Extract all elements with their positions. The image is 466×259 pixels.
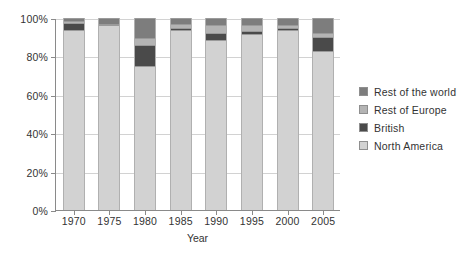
bar-segment-rest-of-the-world[interactable]	[206, 18, 226, 25]
bar-segment-rest-of-europe[interactable]	[206, 25, 226, 34]
y-axis-tick	[51, 19, 56, 20]
bar-segment-rest-of-europe[interactable]	[99, 24, 119, 25]
legend-swatch-icon	[359, 87, 368, 96]
x-axis-label: 2005	[311, 215, 335, 227]
bar-segment-north-america[interactable]	[171, 30, 191, 210]
chart-legend: Rest of the worldRest of EuropeBritishNo…	[359, 84, 456, 156]
bar-segment-rest-of-the-world[interactable]	[242, 18, 262, 25]
y-axis-tick	[51, 57, 56, 58]
bar-segment-rest-of-the-world[interactable]	[135, 18, 155, 38]
bar-segment-north-america[interactable]	[64, 30, 84, 210]
x-axis-label: 2000	[275, 215, 299, 227]
bar-segment-rest-of-europe[interactable]	[135, 38, 155, 45]
x-axis-title: Year	[55, 232, 340, 244]
y-axis-label: 60%	[26, 90, 48, 102]
x-axis-label: 1995	[240, 215, 264, 227]
bar-segment-north-america[interactable]	[135, 66, 155, 210]
legend-label: Rest of Europe	[374, 104, 447, 116]
x-axis-label: 1990	[204, 215, 228, 227]
y-axis-label: 80%	[26, 51, 48, 63]
bar-2005[interactable]	[312, 18, 334, 210]
bar-segment-british[interactable]	[171, 28, 191, 31]
bar-1975[interactable]	[98, 18, 120, 210]
bar-segment-rest-of-europe[interactable]	[313, 33, 333, 37]
bar-segment-rest-of-the-world[interactable]	[99, 18, 119, 24]
bar-segment-north-america[interactable]	[242, 34, 262, 210]
legend-item-north-america[interactable]: North America	[359, 138, 456, 153]
legend-label: British	[374, 122, 405, 134]
legend-swatch-icon	[359, 123, 368, 132]
bar-segment-british[interactable]	[242, 31, 262, 34]
stacked-bar-chart: 0%20%40%60%80%100%1970197519801985199019…	[0, 0, 466, 259]
bar-segment-rest-of-the-world[interactable]	[171, 18, 191, 24]
bar-segment-british[interactable]	[135, 45, 155, 66]
bar-1970[interactable]	[63, 18, 85, 210]
legend-item-rest-of-the-world[interactable]: Rest of the world	[359, 84, 456, 99]
bar-1995[interactable]	[241, 18, 263, 210]
bar-segment-rest-of-europe[interactable]	[64, 21, 84, 23]
bar-segment-rest-of-the-world[interactable]	[278, 18, 298, 25]
bar-1980[interactable]	[134, 18, 156, 210]
legend-label: Rest of the world	[374, 86, 456, 98]
bar-segment-british[interactable]	[313, 37, 333, 50]
bar-segment-british[interactable]	[64, 23, 84, 30]
y-axis-tick	[51, 211, 56, 212]
bar-segment-british[interactable]	[206, 33, 226, 40]
bar-segment-rest-of-the-world[interactable]	[313, 18, 333, 33]
legend-label: North America	[374, 140, 443, 152]
bar-segment-rest-of-the-world[interactable]	[64, 18, 84, 21]
y-axis-tick	[51, 134, 56, 135]
bar-1985[interactable]	[170, 18, 192, 210]
bar-segment-north-america[interactable]	[278, 30, 298, 210]
bar-segment-rest-of-europe[interactable]	[278, 25, 298, 28]
x-axis-label: 1985	[169, 215, 193, 227]
y-axis-tick	[51, 173, 56, 174]
bar-segment-north-america[interactable]	[206, 40, 226, 210]
bar-segment-north-america[interactable]	[313, 51, 333, 210]
y-axis-label: 20%	[26, 167, 48, 179]
legend-swatch-icon	[359, 105, 368, 114]
bar-segment-british[interactable]	[278, 28, 298, 30]
bar-segment-rest-of-europe[interactable]	[171, 24, 191, 28]
legend-item-british[interactable]: British	[359, 120, 456, 135]
plot-area: 0%20%40%60%80%100%1970197519801985199019…	[55, 19, 340, 211]
y-axis-tick	[51, 96, 56, 97]
bar-2000[interactable]	[277, 18, 299, 210]
legend-item-rest-of-europe[interactable]: Rest of Europe	[359, 102, 456, 117]
y-axis-label: 40%	[26, 128, 48, 140]
x-axis-label: 1970	[62, 215, 86, 227]
bar-segment-north-america[interactable]	[99, 25, 119, 210]
y-axis-label: 0%	[32, 205, 48, 217]
x-axis-label: 1975	[97, 215, 121, 227]
bar-segment-rest-of-europe[interactable]	[242, 25, 262, 32]
bar-1990[interactable]	[205, 18, 227, 210]
legend-swatch-icon	[359, 141, 368, 150]
x-axis-label: 1980	[133, 215, 157, 227]
y-axis-label: 100%	[20, 13, 48, 25]
